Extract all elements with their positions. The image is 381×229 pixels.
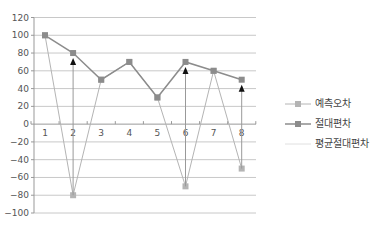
- legend: 예측오차 절대편차 평균절대편차: [285, 95, 381, 155]
- chart: 120100806040200−20−40−60−80−100 12345678…: [0, 0, 381, 229]
- legend-label: 절대편차: [315, 117, 351, 129]
- data-point-marker: [126, 59, 132, 65]
- y-tick-label: 120: [12, 13, 29, 23]
- x-axis: 12345678: [31, 121, 256, 138]
- legend-label: 평균절대편차: [315, 137, 369, 149]
- y-tick-label: −100: [4, 208, 29, 218]
- data-point-marker: [70, 50, 76, 56]
- legend-line-square-icon: [285, 119, 313, 129]
- data-point-marker: [154, 94, 160, 100]
- legend-item-mean-absolute-deviation: 평균절대편차: [285, 135, 381, 155]
- legend-item-prediction-error: 예측오차: [285, 95, 381, 115]
- legend-line-square-icon: [285, 99, 313, 109]
- deviation-arrows: [70, 58, 245, 195]
- series-line: [45, 35, 242, 195]
- data-point-marker: [98, 77, 104, 83]
- legend-item-absolute-deviation: 절대편차: [285, 115, 381, 135]
- x-tick-label: 7: [211, 128, 217, 138]
- x-tick-label: 4: [126, 128, 132, 138]
- data-point-marker: [42, 32, 48, 38]
- y-tick-label: 40: [18, 84, 30, 94]
- y-tick-label: 100: [12, 30, 29, 40]
- y-tick-label: 80: [18, 48, 30, 58]
- y-tick-label: 0: [23, 119, 29, 129]
- y-tick-label: 20: [18, 101, 30, 111]
- arrow-head-icon: [70, 58, 76, 65]
- gridlines: [34, 18, 256, 214]
- y-tick-label: −40: [10, 155, 29, 165]
- x-tick-label: 5: [155, 128, 161, 138]
- y-axis: 120100806040200−20−40−60−80−100: [4, 13, 34, 219]
- data-point-marker: [211, 68, 217, 74]
- legend-label: 예측오차: [315, 98, 351, 109]
- y-tick-label: 60: [18, 66, 30, 76]
- y-tick-label: −60: [10, 172, 29, 182]
- legend-line-icon: [285, 139, 313, 149]
- data-point-marker: [239, 77, 245, 83]
- data-point-marker: [183, 59, 189, 65]
- y-tick-label: −20: [10, 137, 29, 147]
- series-lines: [42, 32, 245, 198]
- x-tick-label: 3: [98, 128, 104, 138]
- y-tick-label: −80: [10, 190, 29, 200]
- x-tick-label: 1: [42, 128, 48, 138]
